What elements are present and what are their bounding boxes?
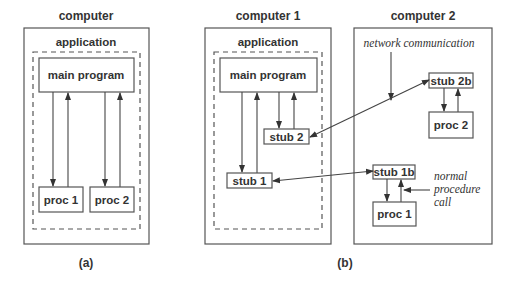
computer2-label: computer 2: [391, 9, 456, 23]
application-label: application: [56, 36, 117, 48]
caption-b: (b): [337, 256, 352, 270]
diagram-a: computer application main program proc 1…: [24, 9, 149, 270]
caption-a: (a): [79, 256, 94, 270]
proc1-label: proc 1: [44, 194, 79, 206]
computer-label: computer: [59, 9, 114, 23]
proc1-label: proc 1: [377, 208, 412, 220]
diagram-b-computer1: computer 1 application main program stub…: [205, 9, 331, 244]
stub2b-label: stub 2b: [431, 75, 472, 87]
proc2-label: proc 2: [434, 119, 469, 131]
computer1-label: computer 1: [236, 9, 301, 23]
proc2-label: proc 2: [95, 194, 130, 206]
main-program-label: main program: [48, 69, 125, 81]
normal-call-label-1: normal: [434, 170, 467, 182]
rpc-diagram: computer application main program proc 1…: [0, 0, 515, 282]
normal-call-label-2: procedure: [433, 183, 480, 196]
normal-call-label-3: call: [434, 196, 451, 208]
network-communication-label: network communication: [364, 37, 475, 49]
application-label: application: [238, 36, 299, 48]
stub1b-label: stub 1b: [374, 166, 415, 178]
stub2-label: stub 2: [270, 131, 304, 143]
main-program-label: main program: [230, 69, 307, 81]
diagram-b-computer2: computer 2 network communication stub 2b…: [354, 9, 492, 244]
stub1-label: stub 1: [233, 175, 267, 187]
